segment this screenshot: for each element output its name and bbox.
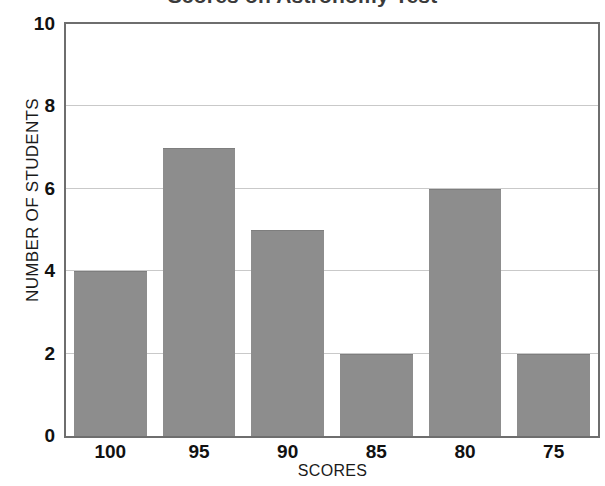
x-axis-tick-label: 75	[509, 442, 598, 461]
x-axis-tick-label: 80	[421, 442, 510, 461]
bar	[251, 230, 324, 436]
chart-title: Scores on Astronomy Test	[0, 0, 605, 8]
x-axis-title: SCORES	[65, 462, 600, 480]
x-axis-tick-label: 100	[66, 442, 155, 461]
y-axis-title: NUMBER OF STUDENTS	[23, 70, 43, 330]
y-axis-tick-label: 2	[0, 344, 55, 363]
x-axis-tick-label: 90	[243, 442, 332, 461]
bar-chart: Scores on Astronomy Test NUMBER OF STUDE…	[0, 0, 605, 486]
plot-area	[64, 22, 600, 438]
bar	[517, 354, 590, 436]
bar	[163, 148, 236, 436]
y-axis-tick-label: 0	[0, 426, 55, 445]
bar	[429, 189, 502, 436]
gridline	[66, 188, 598, 189]
x-axis-tick-label: 85	[332, 442, 421, 461]
y-axis-tick-label: 10	[0, 14, 55, 33]
bar	[74, 271, 147, 436]
bar	[340, 354, 413, 436]
gridline	[66, 105, 598, 106]
x-axis-tick-label: 95	[155, 442, 244, 461]
